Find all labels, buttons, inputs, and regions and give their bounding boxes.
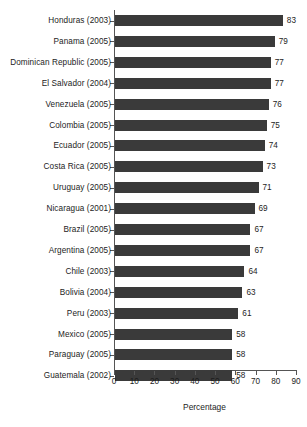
bar	[115, 161, 263, 172]
category-label: Bolivia (2004)	[60, 287, 111, 298]
bar	[115, 36, 275, 47]
category-label: Brazil (2005)	[64, 224, 111, 235]
x-axis-tick	[175, 371, 176, 375]
bar	[115, 287, 242, 298]
bar-chart: Honduras (2003)83Panama (2005)79Dominica…	[0, 0, 307, 427]
category-label: Honduras (2003)	[48, 15, 111, 26]
category-label: Argentina (2005)	[49, 245, 111, 256]
bar-value-label: 58	[236, 349, 245, 360]
category-label: Venezuela (2005)	[46, 99, 112, 110]
bar	[115, 329, 232, 340]
x-axis-tick	[235, 371, 236, 375]
bar	[115, 203, 255, 214]
x-axis-tick	[215, 371, 216, 375]
bar	[115, 182, 259, 193]
x-axis-tick-label: 90	[284, 377, 307, 387]
bar	[115, 140, 265, 151]
bar-row: Honduras (2003)83	[0, 15, 307, 36]
bar-row: Nicaragua (2001)69	[0, 203, 307, 224]
bar-value-label: 61	[242, 308, 251, 319]
category-label: Nicaragua (2001)	[46, 203, 111, 214]
category-label: Uruguay (2005)	[53, 182, 111, 193]
x-axis-tick	[276, 371, 277, 375]
category-label: Panama (2005)	[53, 36, 111, 47]
bar	[115, 245, 250, 256]
bar-row: Dominican Republic (2005)77	[0, 57, 307, 78]
x-axis-title-label: Percentage	[183, 402, 226, 412]
category-label: Guatemala (2002)	[44, 370, 111, 381]
category-label: El Salvador (2004)	[42, 78, 111, 89]
bar-value-label: 75	[271, 120, 280, 131]
bar-value-label: 69	[259, 203, 268, 214]
category-label: Ecuador (2005)	[53, 140, 111, 151]
bar-value-label: 67	[254, 245, 263, 256]
x-axis-tick	[256, 371, 257, 375]
bar	[115, 57, 271, 68]
category-label: Peru (2003)	[67, 308, 111, 319]
bar	[115, 15, 283, 26]
bar	[115, 349, 232, 360]
bar	[115, 224, 250, 235]
bar	[115, 99, 269, 110]
bar	[115, 308, 238, 319]
bar-row: Paraguay (2005)58	[0, 349, 307, 370]
bar-row: Venezuela (2005)76	[0, 99, 307, 120]
plot-area: Honduras (2003)83Panama (2005)79Dominica…	[0, 0, 307, 427]
bar-row: Mexico (2005)58	[0, 329, 307, 350]
bar-row: Chile (2003)64	[0, 266, 307, 287]
bar-value-label: 64	[248, 266, 257, 277]
x-axis-tick	[114, 371, 115, 375]
bar-value-label: 77	[275, 78, 284, 89]
bar-value-label: 58	[236, 329, 245, 340]
x-axis-title: Percentage	[0, 402, 307, 412]
bar-value-label: 79	[279, 36, 288, 47]
bar-value-label: 83	[287, 15, 296, 26]
category-label: Chile (2003)	[65, 266, 111, 277]
x-axis-tick	[134, 371, 135, 375]
bar-row: Brazil (2005)67	[0, 224, 307, 245]
bar-value-label: 77	[275, 57, 284, 68]
category-label: Dominican Republic (2005)	[10, 57, 111, 68]
bar-value-label: 63	[246, 287, 255, 298]
bar-row: Peru (2003)61	[0, 308, 307, 329]
bar-value-label: 74	[269, 140, 278, 151]
category-label: Costa Rica (2005)	[44, 161, 111, 172]
bar-row: Argentina (2005)67	[0, 245, 307, 266]
category-label: Colombia (2005)	[49, 120, 111, 131]
x-axis-tick	[154, 371, 155, 375]
x-axis-tick	[296, 371, 297, 375]
bar-value-label: 76	[273, 99, 282, 110]
bar-row: Ecuador (2005)74	[0, 140, 307, 161]
bar-row: Costa Rica (2005)73	[0, 161, 307, 182]
x-axis-tick	[195, 371, 196, 375]
bar-row: Panama (2005)79	[0, 36, 307, 57]
bar-row: El Salvador (2004)77	[0, 78, 307, 99]
bar	[115, 120, 267, 131]
bar-value-label: 73	[267, 161, 276, 172]
bar	[115, 266, 244, 277]
category-label: Paraguay (2005)	[49, 349, 111, 360]
bar-value-label: 71	[263, 182, 272, 193]
category-label: Mexico (2005)	[58, 329, 111, 340]
bar	[115, 78, 271, 89]
bar-row: Bolivia (2004)63	[0, 287, 307, 308]
bar-row: Uruguay (2005)71	[0, 182, 307, 203]
bar-value-label: 67	[254, 224, 263, 235]
bar-row: Colombia (2005)75	[0, 120, 307, 141]
